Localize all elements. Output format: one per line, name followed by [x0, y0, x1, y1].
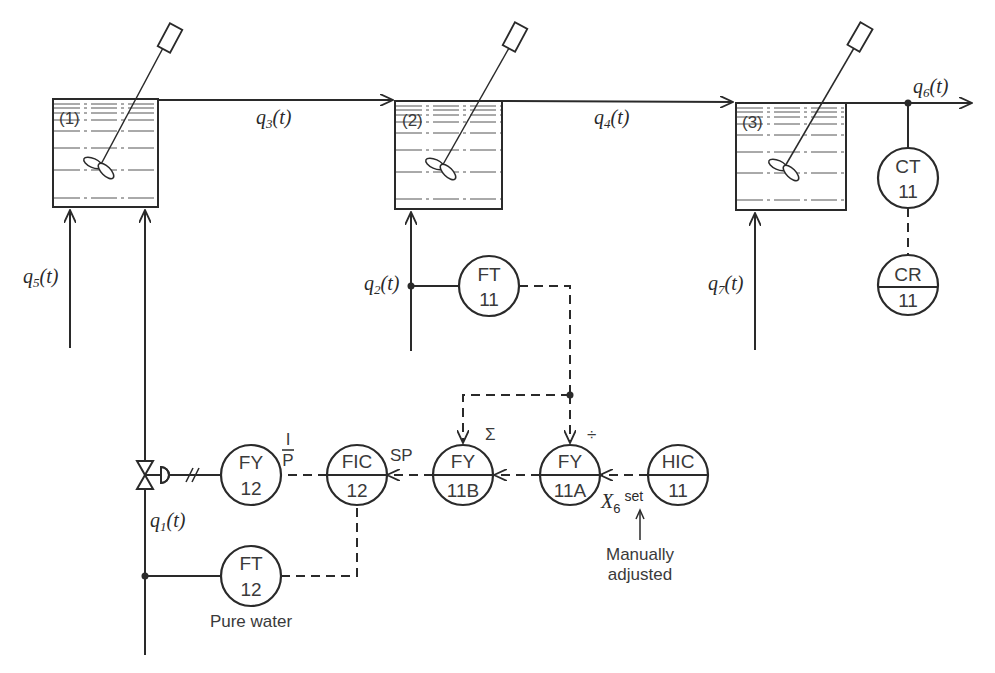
stream-q6-label: q6(t) — [913, 75, 949, 100]
svg-text:FY: FY — [558, 451, 583, 472]
control-valve-icon[interactable] — [137, 461, 220, 489]
instrument-hic11[interactable]: HIC 11 — [648, 445, 708, 505]
svg-text:11: 11 — [898, 290, 918, 311]
instrument-fic12[interactable]: FIC 12 — [327, 445, 387, 505]
tank-2-label: (2) — [402, 111, 423, 130]
svg-text:CT: CT — [895, 156, 921, 177]
svg-text:12: 12 — [240, 579, 261, 600]
instrument-fy11a[interactable]: FY 11A — [540, 445, 600, 505]
instrument-ft12[interactable]: FT 12 — [221, 546, 281, 606]
instrument-fy11b[interactable]: FY 11B — [433, 445, 493, 505]
tank-1-label: (1) — [59, 109, 80, 128]
svg-text:CR: CR — [894, 264, 921, 285]
instrument-ft11[interactable]: FT 11 — [459, 256, 519, 316]
svg-text:HIC: HIC — [662, 451, 695, 472]
svg-text:11: 11 — [479, 289, 499, 310]
svg-text:FT: FT — [477, 264, 501, 285]
agitator-icon — [82, 23, 182, 181]
svg-text:12: 12 — [346, 480, 367, 501]
stream-q7-label: q7(t) — [708, 272, 744, 297]
svg-text:11B: 11B — [447, 480, 479, 501]
main-flow-line — [158, 100, 972, 103]
instrument-fy12[interactable]: FY 12 — [221, 445, 281, 505]
svg-text:P: P — [282, 451, 293, 470]
stream-q2-label: q2(t) — [364, 272, 400, 297]
sum-symbol: Σ — [485, 425, 496, 444]
divide-symbol: ÷ — [587, 425, 596, 444]
manual-note-line1: Manually — [606, 545, 675, 564]
stream-q1 — [142, 210, 222, 655]
tank-1[interactable]: (1) — [53, 23, 182, 207]
tank-3-label: (3) — [742, 113, 763, 132]
svg-text:FY: FY — [451, 451, 476, 472]
instrument-ct11[interactable]: CT 11 — [878, 148, 938, 208]
svg-text:FIC: FIC — [342, 451, 373, 472]
svg-text:FT: FT — [239, 553, 263, 574]
svg-text:11: 11 — [898, 181, 918, 202]
ip-converter-label: I P — [282, 430, 294, 470]
process-diagram: (1) (2) — [0, 0, 995, 673]
setpoint-label: SP — [390, 446, 413, 465]
svg-text:FY: FY — [239, 452, 264, 473]
svg-text:I: I — [286, 430, 291, 449]
tank-3[interactable]: (3) — [736, 22, 873, 210]
stream-q3-label: q3(t) — [256, 106, 292, 131]
svg-text:12: 12 — [240, 478, 261, 499]
stream-q1-label: q1(t) — [150, 509, 186, 534]
tank-2[interactable]: (2) — [395, 22, 527, 209]
manual-note-line2: adjusted — [608, 565, 672, 584]
stream-q4-label: q4(t) — [594, 106, 630, 131]
manual-adjust-arrow-icon — [636, 510, 644, 540]
pure-water-label: Pure water — [210, 612, 293, 631]
x6-set-label: X6set — [600, 488, 643, 516]
svg-text:11: 11 — [668, 480, 688, 501]
stream-q5-label: q5(t) — [23, 265, 59, 290]
agitator-icon — [424, 22, 527, 182]
stream-q2 — [408, 212, 460, 351]
instrument-cr11[interactable]: CR 11 — [878, 255, 938, 315]
svg-text:11A: 11A — [554, 480, 587, 501]
